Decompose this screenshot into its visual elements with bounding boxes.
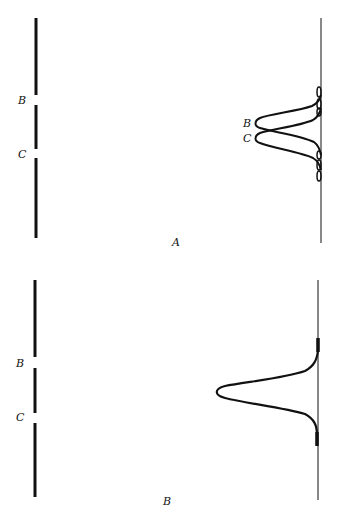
column-label-c-b: C — [16, 411, 25, 424]
peak-label-b: B — [242, 117, 251, 130]
panel-a: B C B C A — [17, 18, 321, 249]
column-label-b-b: B — [15, 357, 24, 370]
panel-b: B C B — [15, 280, 318, 508]
peak-b-curve — [256, 95, 322, 155]
panel-caption-a: A — [171, 236, 180, 249]
column-label-b-a: B — [17, 94, 26, 107]
column-label-c-a: C — [18, 148, 27, 161]
diagram-canvas: B C B C A B C B — [0, 0, 345, 518]
peak-label-c: C — [243, 132, 252, 145]
panel-caption-b: B — [162, 495, 171, 508]
merged-peak-curve — [217, 338, 318, 445]
